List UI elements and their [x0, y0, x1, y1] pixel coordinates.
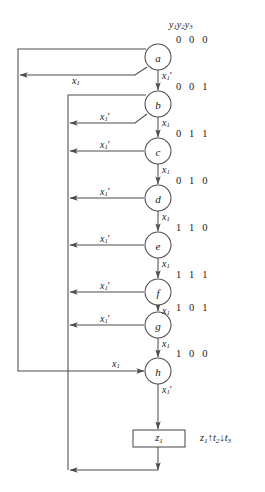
edge-label-d-back: x1′ — [100, 187, 110, 198]
edge-label-g-down: x1 — [162, 339, 170, 350]
edge-label-a-down: x1′ — [162, 71, 172, 82]
edge-label-c-down: x1 — [162, 165, 170, 176]
edge-label-f-back: x1′ — [100, 281, 110, 292]
state-diagram: y1y2y3 a0 0 0b0 0 1c0 1 1d0 1 0e1 1 0f1 … — [0, 0, 265, 492]
edge-label-c-back: x1′ — [100, 140, 110, 151]
edge-label-b-down: x1 — [162, 118, 170, 129]
diagram-canvas — [0, 0, 265, 492]
state-node-label-h: h — [155, 366, 161, 377]
state-code-h: 1 0 0 — [176, 349, 210, 360]
state-code-e: 1 1 0 — [176, 223, 210, 234]
diagram-wires — [18, 49, 158, 470]
state-node-label-d: d — [155, 193, 161, 204]
edge-label-a-back: x1 — [72, 76, 80, 87]
state-node-label-b: b — [155, 99, 161, 110]
state-node-label-c: c — [156, 146, 161, 157]
state-node-label-f: f — [156, 287, 159, 298]
output-annotation: z1↑t2↓t3 — [200, 433, 231, 445]
edge-label-e-back: x1′ — [100, 234, 110, 245]
state-node-label-e: e — [156, 240, 161, 251]
edge-label-d-down: x1 — [162, 212, 170, 223]
state-code-b: 0 0 1 — [176, 82, 210, 93]
state-code-f: 1 1 1 — [176, 270, 210, 281]
state-code-c: 0 1 1 — [176, 129, 210, 140]
edge-label-g-back: x1′ — [100, 314, 110, 325]
state-variable-header: y1y2y3 — [169, 20, 193, 31]
feedback-outer-to-h — [18, 49, 146, 371]
feedback-a-x1-to-outer — [20, 67, 147, 75]
output-box-label: z1 — [155, 433, 163, 445]
state-node-label-a: a — [155, 52, 161, 63]
edge-label-h-down: x1′ — [162, 385, 172, 396]
edge-label-h-in: x1 — [112, 359, 120, 370]
state-code-a: 0 0 0 — [176, 35, 210, 46]
edge-label-e-down: x1 — [162, 259, 170, 270]
edge-label-f-down: x1 — [162, 306, 170, 317]
state-node-label-g: g — [155, 320, 161, 331]
edge-label-b-back: x1′ — [100, 112, 110, 123]
state-code-g: 1 0 1 — [176, 303, 210, 314]
state-code-d: 0 1 0 — [176, 176, 210, 187]
